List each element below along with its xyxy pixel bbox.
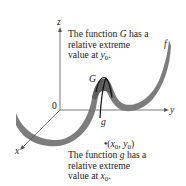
top-annotation-line3: value at y0. — [68, 50, 148, 61]
bottom-annotation: The function g has a relative extreme va… — [68, 150, 146, 182]
x-axis-label: x — [15, 146, 19, 157]
top-annotation-line1: The function G has a — [68, 29, 148, 40]
bottom-annotation-line3: value at x0. — [68, 171, 146, 182]
z-axis-label: z — [57, 17, 61, 28]
z-axis-arrow-icon — [58, 27, 62, 32]
y-axis-arrow-icon — [164, 108, 169, 112]
point-x0-y0: •(x0, y0) — [104, 139, 134, 150]
bottom-annotation-line1: The function g has a — [68, 150, 146, 161]
top-annotation: The function G has a relative extreme va… — [68, 29, 148, 61]
surface-label-f: f — [164, 39, 167, 50]
origin-label: 0 — [52, 101, 57, 112]
y-axis-label: y — [170, 105, 174, 116]
curve-label-g: g — [101, 117, 106, 128]
curve-label-G: G — [89, 74, 96, 85]
